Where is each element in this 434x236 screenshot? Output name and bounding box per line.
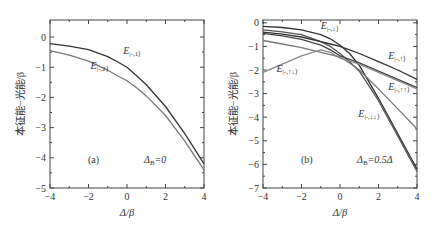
y-tick-label: −7 — [248, 183, 259, 194]
panel-label: (a) — [88, 154, 99, 166]
x-axis-label: Δ/β — [332, 207, 348, 218]
x-axis-label: Δ/β — [119, 207, 135, 218]
y-tick-label: −5 — [35, 183, 46, 194]
x-tick-label: −4 — [258, 191, 269, 202]
x-tick-label: −2 — [296, 191, 307, 202]
y-tick-label: −1 — [248, 41, 259, 52]
x-tick-label: 0 — [338, 191, 343, 202]
panel-label: (b) — [301, 154, 313, 166]
series-line — [50, 44, 204, 164]
y-axis-label: 本征能−光能/β — [14, 72, 26, 136]
y-tick-label: −5 — [248, 135, 259, 146]
x-tick-label: 4 — [415, 191, 420, 202]
curve-label: E|-,↓↓⟩ — [357, 108, 380, 121]
curve-label: E|-,↑⟩ — [387, 50, 406, 63]
y-tick-label: −2 — [248, 65, 259, 76]
x-tick-label: −4 — [45, 191, 56, 202]
curve-label: E|-,1⟩ — [122, 45, 141, 58]
figure: −4−20240−1−2−3−4−5E|-,1⟩E|-,2⟩(a)ΔB=0Δ/β… — [0, 0, 434, 236]
x-tick-label: 2 — [163, 191, 168, 202]
x-tick-label: 4 — [202, 191, 207, 202]
x-tick-label: 2 — [376, 191, 381, 202]
curve-label: E|-,↓⟩ — [320, 20, 339, 33]
condition-annotation: ΔB=0.5Δ — [356, 154, 393, 167]
y-tick-label: −1 — [35, 62, 46, 73]
y-tick-label: 0 — [254, 17, 259, 28]
y-axis-label: 本征能−光能/β — [227, 72, 239, 136]
y-tick-label: −4 — [248, 112, 259, 123]
curve-label: E|-,2⟩ — [89, 60, 108, 73]
y-tick-label: −6 — [248, 159, 259, 170]
panel-b-chart: −4−20240−1−2−3−4−5−6−7E|-,↓⟩E|-,↑⟩E|-,↑↓… — [227, 17, 420, 218]
condition-annotation: ΔB=0 — [143, 154, 166, 167]
y-tick-label: −2 — [35, 92, 46, 103]
series-line — [263, 26, 417, 169]
y-tick-label: −3 — [248, 88, 259, 99]
x-tick-label: −2 — [83, 191, 94, 202]
curve-label: E|-,↑↓⟩ — [275, 63, 298, 76]
panel-a-chart: −4−20240−1−2−3−4−5E|-,1⟩E|-,2⟩(a)ΔB=0Δ/β… — [14, 20, 207, 218]
series-line — [50, 51, 204, 170]
y-tick-label: −3 — [35, 122, 46, 133]
y-tick-label: −4 — [35, 152, 46, 163]
x-tick-label: 0 — [125, 191, 130, 202]
y-tick-label: 0 — [41, 32, 46, 43]
